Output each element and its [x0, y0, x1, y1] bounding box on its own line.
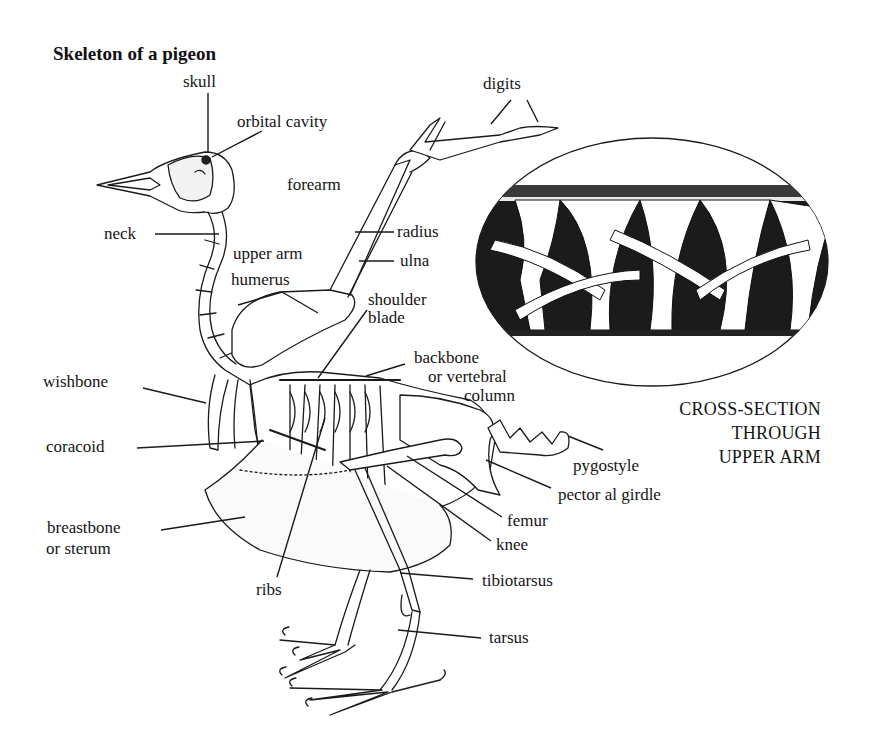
label-backbone: backbone	[414, 349, 479, 367]
label-column: column	[464, 387, 515, 405]
label-pectoral-girdle: pector al girdle	[558, 486, 661, 504]
label-or-sternum: or sterum	[46, 540, 111, 558]
wishbone-drawing	[208, 375, 258, 450]
label-skull: skull	[183, 73, 216, 91]
inset-caption-line2: THROUGH	[679, 421, 821, 445]
label-shoulder-blade: blade	[368, 309, 405, 327]
label-humerus: humerus	[231, 271, 290, 289]
label-forearm: forearm	[287, 176, 341, 194]
label-radius: radius	[397, 223, 439, 241]
label-breastbone: breastbone	[47, 519, 121, 537]
label-ulna: ulna	[400, 252, 429, 270]
label-knee: knee	[496, 536, 528, 554]
label-or-vertebral: or vertebral	[428, 368, 507, 386]
label-tarsus: tarsus	[489, 629, 529, 647]
inset-caption: CROSS-SECTION THROUGH UPPER ARM	[679, 397, 821, 469]
label-pygostyle: pygostyle	[573, 457, 639, 475]
inset-caption-line3: UPPER ARM	[679, 445, 821, 469]
cross-section-inset	[470, 138, 840, 386]
label-wishbone: wishbone	[43, 373, 108, 391]
label-tibiotarsus: tibiotarsus	[482, 572, 553, 590]
label-neck: neck	[104, 225, 136, 243]
label-orbital-cavity: orbital cavity	[237, 113, 327, 131]
label-ribs: ribs	[256, 581, 282, 599]
inset-caption-line1: CROSS-SECTION	[679, 397, 821, 421]
label-digits: digits	[483, 75, 521, 93]
label-shoulder: shoulder	[368, 291, 427, 309]
label-femur: femur	[507, 512, 548, 530]
skull-drawing	[97, 152, 234, 213]
label-upper-arm: upper arm	[233, 245, 302, 263]
label-coracoid: coracoid	[46, 438, 105, 456]
